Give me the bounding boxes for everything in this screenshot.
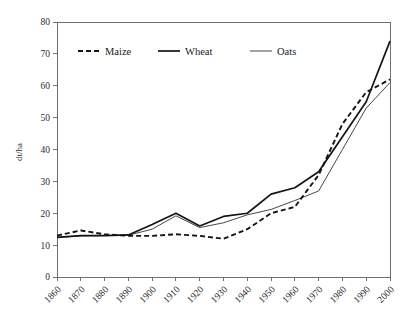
chart-container: 01020304050607080 1860187018801890190019…: [0, 0, 406, 322]
y-tick-label: 80: [41, 17, 51, 27]
y-axis-title: dt/ha: [14, 143, 24, 161]
y-tick-label: 30: [41, 177, 51, 187]
y-tick-label: 70: [41, 49, 51, 59]
legend-label-maize: Maize: [105, 46, 132, 57]
y-axis-tick-labels: 01020304050607080: [41, 17, 51, 282]
y-tick-label: 10: [41, 241, 51, 251]
legend-label-wheat: Wheat: [185, 46, 212, 57]
legend-label-oats: Oats: [277, 46, 296, 57]
y-tick-label: 50: [41, 113, 51, 123]
line-chart: 01020304050607080 1860187018801890190019…: [0, 0, 406, 322]
y-tick-label: 60: [41, 81, 51, 91]
y-tick-label: 0: [45, 272, 50, 282]
y-tick-label: 20: [41, 209, 51, 219]
y-tick-label: 40: [41, 145, 51, 155]
